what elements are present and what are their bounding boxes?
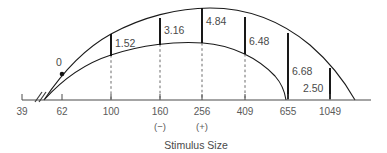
tick-label-160: 160 <box>152 106 169 117</box>
value-label-409: 6.48 <box>249 35 270 47</box>
sign-sublabels-group: (−) (+) <box>154 121 208 132</box>
value-labels-group: 1.52 3.16 4.84 6.48 6.68 2.50 <box>115 15 324 94</box>
stimulus-size-chart: 0 1.52 3.16 4.84 6.48 6.68 2.50 <box>0 0 387 153</box>
value-label-1049: 2.50 <box>303 82 324 94</box>
origin-label: 0 <box>56 56 62 68</box>
tick-label-655: 655 <box>280 106 297 117</box>
value-label-256: 4.84 <box>206 15 227 27</box>
tick-label-409: 409 <box>237 106 254 117</box>
tick-label-100: 100 <box>103 106 120 117</box>
tick-label-62: 62 <box>56 106 68 117</box>
origin-dot <box>60 72 65 77</box>
tick-label-256: 256 <box>194 106 211 117</box>
value-label-655: 6.68 <box>292 65 313 77</box>
origin-marker-group: 0 <box>56 56 64 76</box>
value-label-100: 1.52 <box>115 37 136 49</box>
value-label-160: 3.16 <box>164 24 185 36</box>
tick-label-39: 39 <box>16 106 28 117</box>
dashed-droplines-group <box>111 43 245 99</box>
chart-svg: 0 1.52 3.16 4.84 6.48 6.68 2.50 <box>0 0 387 153</box>
x-axis-title: Stimulus Size <box>164 139 228 151</box>
tick-label-1049: 1049 <box>319 106 342 117</box>
x-tick-labels-group: 39 62 100 160 256 409 655 1049 <box>16 106 341 117</box>
lower-curve <box>44 43 286 101</box>
sign-label-plus: (+) <box>196 121 208 132</box>
sign-label-minus: (−) <box>154 121 166 132</box>
